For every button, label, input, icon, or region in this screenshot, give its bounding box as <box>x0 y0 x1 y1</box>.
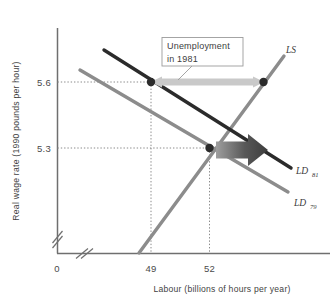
curve-label-ld79-subscript: 79 <box>310 203 317 210</box>
annotation-leader-line <box>178 66 192 80</box>
y-tick-label-5-3: 5.3 <box>37 143 51 154</box>
curve-label-ld81-group: LD 81 <box>295 166 319 178</box>
x-tick-label-49: 49 <box>145 263 156 274</box>
curve-label-ld81-subscript: 81 <box>312 171 319 178</box>
curve-label-ld79: LD <box>293 198 306 208</box>
y-axis-title: Real wage rate (1990 pounds per hour) <box>11 61 21 220</box>
origin-label: 0 <box>54 263 60 274</box>
chart-svg: Unemployment in 1981 5.6 5.3 49 52 0 Rea… <box>0 0 336 306</box>
curve-label-ls: LS <box>285 45 296 55</box>
point-ld81-at-5-6 <box>147 78 155 86</box>
unemployment-double-arrow <box>151 77 265 88</box>
curve-label-ld79-group: LD 79 <box>293 198 317 210</box>
point-equilibrium-1979 <box>205 144 213 152</box>
y-tick-label-5-6: 5.6 <box>37 77 51 88</box>
annotation-line-2: in 1981 <box>167 54 198 64</box>
curve-label-ld81: LD <box>295 166 308 176</box>
curve-ld79 <box>80 70 288 192</box>
x-axis-title: Labour (billions of hours per year) <box>153 284 290 294</box>
chart-figure: Unemployment in 1981 5.6 5.3 49 52 0 Rea… <box>0 0 336 306</box>
x-tick-label-52: 52 <box>204 263 215 274</box>
point-ls-at-5-6 <box>259 78 267 86</box>
annotation-line-1: Unemployment <box>167 41 230 51</box>
